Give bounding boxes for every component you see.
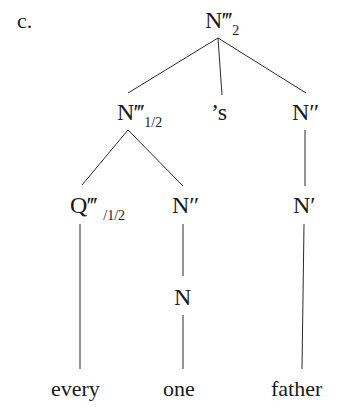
tree-edges <box>0 0 342 407</box>
node-l2-n2: N″ <box>172 193 199 217</box>
node-l3-n: N <box>174 285 191 309</box>
word-father: father <box>271 378 322 400</box>
node-l1-mid: ’s <box>211 100 227 124</box>
edge-left-q <box>82 130 128 185</box>
node-root-cat: N‴ <box>205 7 232 33</box>
edge-n1-father <box>302 224 304 369</box>
word-every: every <box>51 378 100 400</box>
node-root-sub: 2 <box>232 23 239 38</box>
node-l1-left-sub: 1/2 <box>144 115 162 130</box>
edge-root-left <box>128 38 218 93</box>
node-l2-q: Q‴/1/2 <box>70 193 125 221</box>
node-l2-q-sub: /1/2 <box>103 208 125 223</box>
example-label: c. <box>17 9 32 33</box>
node-l1-left: N‴1/2 <box>117 100 162 128</box>
node-l1-right: N″ <box>292 100 319 124</box>
edge-left-n2 <box>128 130 183 186</box>
edge-root-right <box>218 38 306 93</box>
node-root: N‴2 <box>205 8 239 36</box>
edge-root-s <box>218 38 222 95</box>
word-one: one <box>163 378 195 400</box>
node-l2-right: N′ <box>293 193 316 217</box>
node-l1-left-cat: N‴ <box>117 99 144 125</box>
node-l2-q-cat: Q‴ <box>70 192 97 218</box>
